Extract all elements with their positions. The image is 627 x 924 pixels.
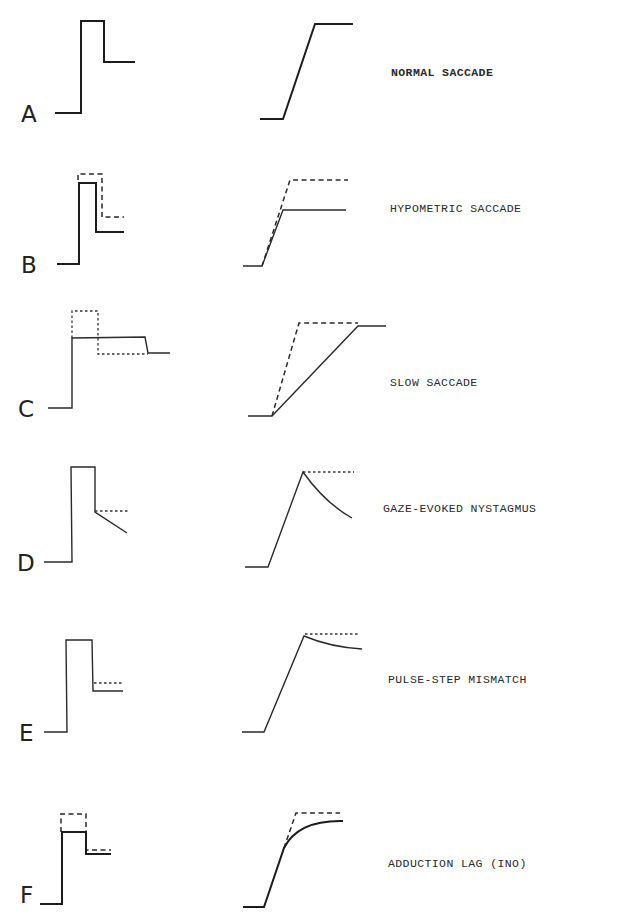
pulse-step-trace bbox=[44, 467, 127, 562]
eye-position-trace bbox=[243, 210, 346, 266]
pulse-step-trace bbox=[44, 640, 123, 732]
pulse-step-trace bbox=[40, 832, 111, 904]
panel-letter: A bbox=[21, 101, 37, 127]
eye-position-trace bbox=[260, 24, 353, 119]
panel-b: B HYPOMETRIC SACCADE bbox=[21, 174, 521, 278]
pulse-step-trace bbox=[57, 183, 124, 264]
panel-letter: E bbox=[19, 720, 34, 746]
panel-letter: F bbox=[20, 882, 33, 908]
panel-a: A NORMAL SACCADE bbox=[21, 21, 493, 127]
eye-position-trace bbox=[245, 472, 352, 567]
saccade-diagram: A NORMAL SACCADE B HYPOMETRIC SACCADE C … bbox=[0, 0, 627, 924]
eye-position-trace bbox=[243, 821, 343, 907]
panel-letter: C bbox=[18, 396, 34, 422]
panel-letter: B bbox=[21, 252, 37, 278]
panel-letter: D bbox=[17, 550, 35, 576]
panel-caption: GAZE-EVOKED NYSTAGMUS bbox=[383, 502, 536, 515]
panel-d: D GAZE-EVOKED NYSTAGMUS bbox=[17, 467, 536, 576]
panel-caption: PULSE-STEP MISMATCH bbox=[388, 673, 527, 686]
panel-caption: SLOW SACCADE bbox=[390, 376, 478, 389]
pulse-step-trace bbox=[48, 337, 170, 408]
panel-c: C SLOW SACCADE bbox=[18, 311, 478, 422]
panel-f: F ADDUCTION LAG (INO) bbox=[20, 813, 527, 908]
eye-position-trace bbox=[248, 326, 386, 416]
panel-caption: HYPOMETRIC SACCADE bbox=[390, 202, 521, 215]
normal-eye-position-dashed bbox=[262, 180, 348, 266]
normal-pulse-step-dashed bbox=[78, 174, 124, 217]
normal-eye-position-dashed bbox=[284, 813, 340, 848]
panel-e: E PULSE-STEP MISMATCH bbox=[19, 634, 527, 746]
eye-position-trace bbox=[242, 636, 362, 732]
panel-caption: NORMAL SACCADE bbox=[391, 66, 493, 79]
panel-caption: ADDUCTION LAG (INO) bbox=[388, 857, 527, 870]
pulse-step-trace bbox=[55, 21, 135, 113]
normal-pulse-step-dashed bbox=[72, 311, 148, 354]
